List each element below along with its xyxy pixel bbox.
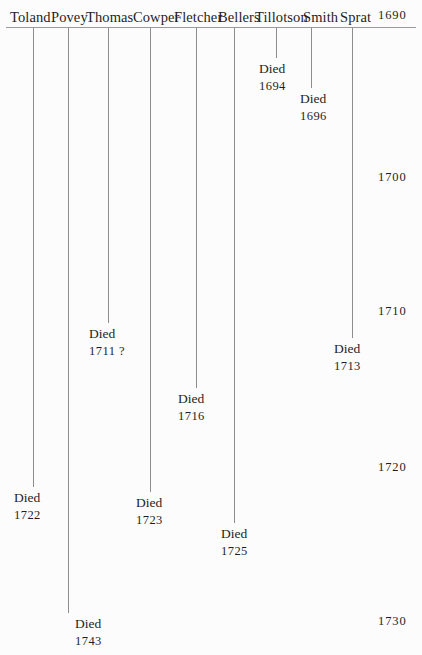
death-year: 1713 (334, 358, 361, 375)
died-word: Died (334, 340, 361, 358)
life-line-fletcher (196, 28, 197, 388)
life-line-smith (311, 28, 312, 88)
death-label-tillotson: Died1694 (259, 60, 286, 95)
death-label-toland: Died1722 (14, 489, 41, 524)
death-label-thomas: Died1711 ? (89, 325, 125, 360)
died-word: Died (221, 525, 248, 543)
column-header-cowper: Cowper (133, 10, 180, 25)
life-line-bellers (234, 28, 235, 523)
column-header-tillotson: Tillotson (255, 10, 308, 25)
life-line-cowper (150, 28, 151, 492)
column-header-toland: Toland (10, 10, 51, 25)
decade-tick-1700: 1700 (378, 170, 407, 185)
column-header-thomas: Thomas (86, 10, 133, 25)
died-word: Died (136, 494, 163, 512)
died-word: Died (178, 390, 205, 408)
column-header-smith: Smith (303, 10, 338, 25)
column-header-povey: Povey (51, 10, 88, 25)
column-header-bellers: Bellers (218, 10, 260, 25)
decade-tick-1730: 1730 (378, 614, 407, 629)
timeline-chart: TolandPoveyThomasCowperFletcherBellersTi… (0, 0, 422, 655)
decade-tick-1710: 1710 (378, 304, 407, 319)
died-word: Died (75, 615, 102, 633)
died-word: Died (89, 325, 125, 343)
death-year: 1716 (178, 408, 205, 425)
life-line-thomas (108, 28, 109, 323)
died-word: Died (300, 90, 327, 108)
death-label-smith: Died1696 (300, 90, 327, 125)
decade-tick-1720: 1720 (378, 460, 407, 475)
life-line-sprat (352, 28, 353, 338)
life-line-tillotson (276, 28, 277, 58)
death-year: 1711 ? (89, 343, 125, 360)
death-label-fletcher: Died1716 (178, 390, 205, 425)
death-year: 1743 (75, 633, 102, 650)
death-year: 1696 (300, 108, 327, 125)
death-label-povey: Died1743 (75, 615, 102, 650)
death-label-sprat: Died1713 (334, 340, 361, 375)
death-year: 1725 (221, 543, 248, 560)
column-header-fletcher: Fletcher (174, 10, 222, 25)
death-year: 1722 (14, 507, 41, 524)
death-label-cowper: Died1723 (136, 494, 163, 529)
death-year: 1723 (136, 512, 163, 529)
died-word: Died (14, 489, 41, 507)
decade-tick-1690: 1690 (378, 8, 407, 23)
death-year: 1694 (259, 78, 286, 95)
life-line-povey (68, 28, 69, 613)
died-word: Died (259, 60, 286, 78)
life-line-toland (33, 28, 34, 487)
death-label-bellers: Died1725 (221, 525, 248, 560)
column-header-sprat: Sprat (340, 10, 371, 25)
